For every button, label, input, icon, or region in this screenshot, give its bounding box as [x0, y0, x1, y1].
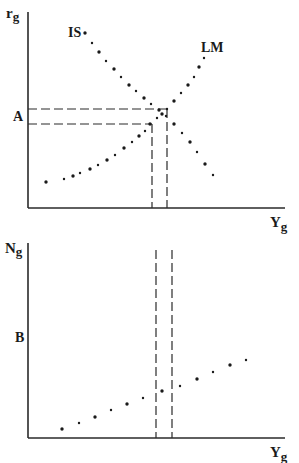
bottom-y-axis-label: Ng	[5, 240, 23, 259]
curve-dot	[160, 112, 163, 115]
curve-dot	[60, 427, 63, 430]
curve-dot	[93, 415, 96, 418]
curve-dot	[188, 140, 191, 143]
curve-dot	[44, 180, 47, 183]
curve-dot	[78, 422, 80, 424]
curve-dot	[83, 31, 86, 34]
curve-dot	[79, 172, 81, 174]
curve-dot	[63, 178, 65, 180]
curve-dot	[203, 57, 205, 59]
curve-dot	[179, 385, 181, 387]
curve-dot	[196, 151, 198, 153]
curve-dot	[197, 65, 200, 68]
curve-dot	[110, 409, 112, 411]
curve-dot	[172, 99, 175, 102]
curve-dot	[150, 103, 152, 105]
curve-dot	[160, 389, 163, 392]
curve-dot	[195, 377, 198, 380]
top-x-axis-label: Yg	[270, 214, 288, 234]
curve-dot	[181, 132, 183, 134]
curve-dot	[137, 134, 140, 137]
curve-dot	[228, 363, 231, 366]
curve-dot	[97, 50, 100, 53]
curve-dot	[105, 158, 108, 161]
curve-dot	[186, 83, 189, 86]
curve-dot	[135, 90, 137, 92]
curve-dot	[212, 174, 214, 176]
top-panel: rg Yg A IS LM	[6, 5, 288, 234]
level-label-a: A	[13, 109, 24, 124]
curve-dot	[156, 117, 158, 119]
curve-dot	[120, 76, 122, 78]
employment-curve	[60, 359, 247, 431]
curve-dot	[131, 141, 133, 143]
curve-dot	[142, 96, 145, 99]
curve-dot	[180, 92, 182, 94]
curve-dot	[97, 164, 99, 166]
curve-dot	[91, 42, 93, 44]
curve-dot	[203, 162, 206, 165]
bottom-panel: Ng Yg B	[5, 240, 288, 463]
is-curve-label: IS	[68, 25, 81, 40]
curve-dot	[122, 146, 125, 149]
curve-dot	[148, 122, 151, 125]
curve-dot	[193, 76, 195, 78]
curve-dot	[88, 167, 91, 170]
curve-dot	[245, 359, 247, 361]
curve-dot	[212, 371, 214, 373]
lm-curve-label: LM	[201, 40, 224, 55]
curve-dot	[157, 108, 160, 111]
lm-curve	[44, 57, 205, 184]
curve-dot	[105, 60, 107, 62]
curve-dot	[125, 402, 128, 405]
curve-dot	[166, 108, 168, 110]
curve-dot	[112, 67, 115, 70]
level-label-b: B	[15, 330, 24, 345]
is-lm-diagram: rg Yg A IS LM Ng Yg B	[0, 0, 299, 463]
top-y-axis-label: rg	[6, 5, 20, 24]
curve-dot	[144, 130, 146, 132]
curve-dot	[127, 83, 130, 86]
curve-dot	[165, 115, 167, 117]
bottom-x-axis-label: Yg	[270, 444, 288, 463]
curve-dot	[142, 397, 144, 399]
curve-dot	[114, 154, 116, 156]
is-curve	[83, 31, 214, 176]
curve-dot	[172, 122, 175, 125]
curve-dot	[71, 174, 74, 177]
